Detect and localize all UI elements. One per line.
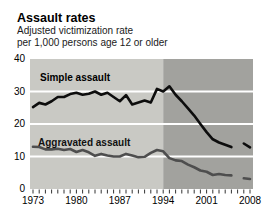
x-axis-tick-label: 1994 bbox=[145, 196, 181, 206]
x-axis-tick-label: 2008 bbox=[232, 196, 264, 206]
series-label-aggravated-assault: Aggravated assault bbox=[38, 137, 130, 148]
series-label-simple-assault: Simple assault bbox=[40, 72, 110, 83]
assault-rates-figure: Assault rates Adjusted victimization rat… bbox=[0, 0, 264, 223]
y-axis-tick-label: 0 bbox=[2, 184, 25, 194]
line-chart-canvas bbox=[0, 0, 264, 223]
y-axis-tick-label: 20 bbox=[2, 119, 25, 129]
x-axis-tick-label: 1987 bbox=[102, 196, 138, 206]
x-axis-tick-label: 1980 bbox=[58, 196, 94, 206]
x-axis-tick-label: 2001 bbox=[189, 196, 225, 206]
y-axis-tick-label: 40 bbox=[2, 54, 25, 64]
y-axis-tick-label: 30 bbox=[2, 87, 25, 97]
y-axis-tick-label: 10 bbox=[2, 152, 25, 162]
x-axis-tick-label: 1973 bbox=[15, 196, 51, 206]
